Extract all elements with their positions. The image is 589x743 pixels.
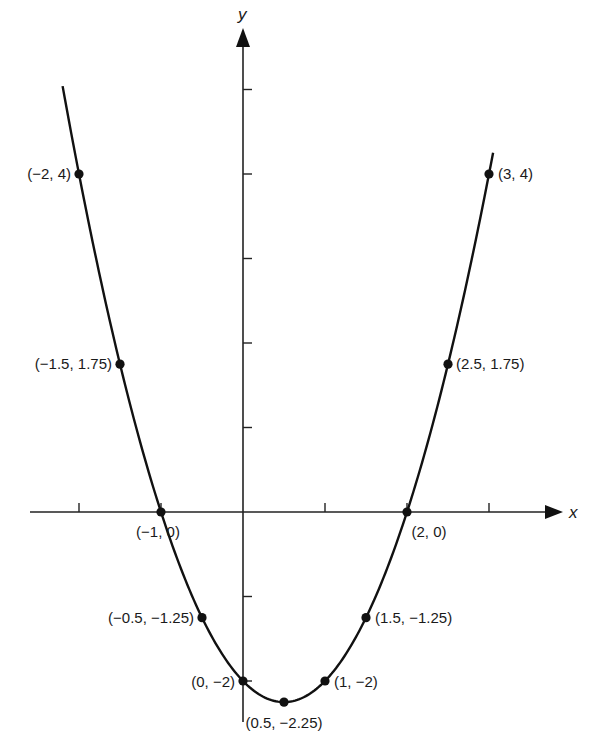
point-labels: (−2, 4)(−1.5, 1.75)(−1, 0)(−0.5, −1.25)(… <box>27 165 533 731</box>
point-label: (0.5, −2.25) <box>245 714 322 731</box>
data-point <box>402 507 411 516</box>
data-point <box>484 169 493 178</box>
y-axis-label: y <box>237 5 248 24</box>
data-point <box>197 613 206 622</box>
tick-marks <box>79 90 489 682</box>
point-label: (1.5, −1.25) <box>375 609 452 626</box>
data-point <box>361 613 370 622</box>
data-point <box>156 507 165 516</box>
point-label: (1, −2) <box>334 673 378 690</box>
point-label: (2.5, 1.75) <box>456 355 524 372</box>
data-points <box>74 169 493 706</box>
point-label: (0, −2) <box>191 673 235 690</box>
x-axis-label: x <box>568 503 578 522</box>
x-axis-arrow-icon <box>545 505 563 519</box>
point-label: (3, 4) <box>498 165 533 182</box>
point-label: (2, 0) <box>411 523 446 540</box>
data-point <box>115 360 124 369</box>
point-label: (−2, 4) <box>27 165 71 182</box>
data-point <box>238 676 247 685</box>
point-label: (−0.5, −1.25) <box>108 609 194 626</box>
y-axis-arrow-icon <box>236 28 250 47</box>
parabola-plot: x y (−2, 4)(−1.5, 1.75)(−1, 0)(−0.5, −1.… <box>0 0 589 743</box>
point-label: (−1, 0) <box>136 523 180 540</box>
data-point <box>279 698 288 707</box>
point-label: (−1.5, 1.75) <box>35 355 112 372</box>
data-point <box>443 360 452 369</box>
data-point <box>74 169 83 178</box>
data-point <box>320 676 329 685</box>
